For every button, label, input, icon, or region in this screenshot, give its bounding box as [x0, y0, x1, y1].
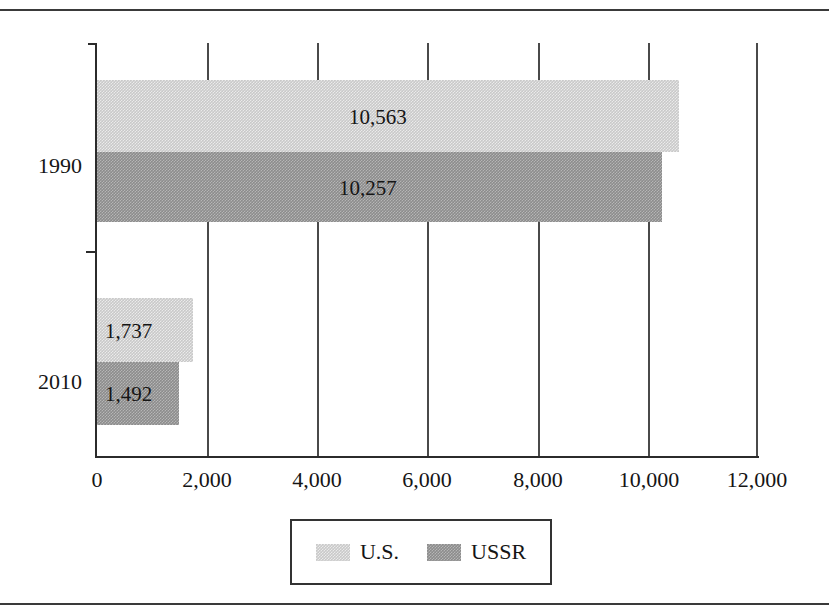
page-rule-top [0, 9, 829, 11]
legend-swatch-ussr-icon [427, 544, 461, 561]
x-tick-label-12000: 12,000 [727, 467, 788, 493]
legend-entry-ussr[interactable]: USSR [427, 539, 526, 565]
bar-value-1990-ussr: 10,257 [339, 178, 397, 199]
x-tick-label-0: 0 [92, 467, 103, 493]
plot-area: 10,563 10,257 1,737 1,492 [97, 43, 758, 456]
bar-value-1990-us: 10,563 [349, 107, 407, 128]
x-tick-label-4000: 4,000 [292, 467, 342, 493]
legend-entry-us[interactable]: U.S. [316, 539, 399, 565]
x-tick-label-6000: 6,000 [402, 467, 452, 493]
bar-chart-figure: 1990 2010 10,563 10,257 1,737 1,492 0 2,… [0, 12, 829, 600]
bar-value-2010-ussr: 1,492 [105, 384, 152, 405]
y-axis-category-labels: 1990 2010 [0, 43, 82, 456]
category-separator-tick [86, 251, 97, 253]
page-rule-bottom [0, 603, 829, 605]
chart-legend: U.S. USSR [290, 519, 552, 585]
legend-swatch-us-icon [316, 544, 350, 561]
y-axis-label-1990: 1990 [38, 153, 82, 179]
x-tick-label-2000: 2,000 [182, 467, 232, 493]
y-axis-label-2010: 2010 [38, 369, 82, 395]
x-axis-line [95, 456, 759, 458]
gridline-12000 [756, 43, 758, 456]
x-tick-label-10000: 10,000 [619, 467, 680, 493]
x-tick-label-8000: 8,000 [513, 467, 563, 493]
y-axis-top-tick [88, 43, 97, 45]
legend-label-us: U.S. [360, 539, 399, 565]
bar-value-2010-us: 1,737 [105, 321, 152, 342]
legend-label-ussr: USSR [471, 539, 526, 565]
